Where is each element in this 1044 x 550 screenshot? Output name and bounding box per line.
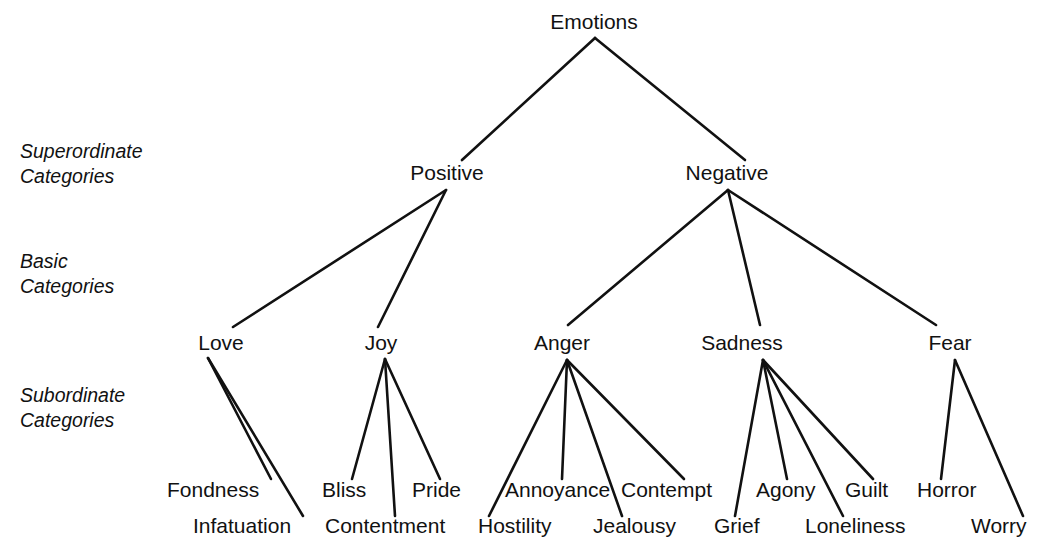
edge-anger-annoyance bbox=[562, 360, 567, 479]
edge-emotions-positive bbox=[462, 38, 595, 160]
node-label-bliss: Bliss bbox=[322, 478, 366, 501]
node-label-love: Love bbox=[198, 331, 244, 354]
level-label-superordinate-line2: Categories bbox=[20, 165, 115, 187]
node-label-guilt: Guilt bbox=[845, 478, 888, 501]
emotion-hierarchy-diagram: EmotionsPositiveNegativeLoveJoyAngerSadn… bbox=[0, 0, 1044, 550]
node-label-sadness: Sadness bbox=[701, 331, 783, 354]
node-label-pride: Pride bbox=[412, 478, 461, 501]
edge-joy-contentment bbox=[385, 359, 395, 516]
node-label-loneliness: Loneliness bbox=[805, 514, 905, 537]
edge-sadness-agony bbox=[763, 360, 787, 479]
edge-fear-horror bbox=[941, 360, 955, 479]
node-label-joy: Joy bbox=[365, 331, 398, 354]
edge-anger-contempt bbox=[567, 360, 684, 479]
edge-negative-fear bbox=[728, 190, 936, 325]
node-label-agony: Agony bbox=[756, 478, 816, 501]
edge-joy-bliss bbox=[352, 359, 385, 479]
node-label-fear: Fear bbox=[928, 331, 971, 354]
edge-sadness-guilt bbox=[763, 360, 873, 479]
node-label-contentment: Contentment bbox=[325, 514, 445, 537]
node-label-worry: Worry bbox=[971, 514, 1027, 537]
node-label-infatuation: Infatuation bbox=[193, 514, 291, 537]
node-label-contempt: Contempt bbox=[621, 478, 712, 501]
level-label-subordinate-line1: Subordinate bbox=[20, 384, 125, 406]
edge-joy-pride bbox=[385, 359, 440, 479]
level-labels-group: SuperordinateCategoriesBasicCategoriesSu… bbox=[20, 140, 143, 431]
nodes-group: EmotionsPositiveNegativeLoveJoyAngerSadn… bbox=[167, 10, 1027, 537]
level-label-basic-line2: Categories bbox=[20, 275, 115, 297]
node-label-grief: Grief bbox=[714, 514, 760, 537]
level-label-superordinate-line1: Superordinate bbox=[20, 140, 143, 162]
edge-negative-sadness bbox=[728, 190, 760, 325]
edges-group bbox=[208, 38, 1023, 516]
edge-negative-anger bbox=[568, 190, 728, 325]
edge-emotions-negative bbox=[595, 38, 745, 160]
tree-canvas: EmotionsPositiveNegativeLoveJoyAngerSadn… bbox=[0, 0, 1044, 550]
node-label-emotions: Emotions bbox=[550, 10, 638, 33]
node-label-horror: Horror bbox=[917, 478, 977, 501]
level-label-basic-line1: Basic bbox=[20, 250, 68, 272]
node-label-fondness: Fondness bbox=[167, 478, 259, 501]
node-label-positive: Positive bbox=[410, 161, 484, 184]
node-label-anger: Anger bbox=[534, 331, 590, 354]
node-label-hostility: Hostility bbox=[478, 514, 552, 537]
node-label-annoyance: Annoyance bbox=[505, 478, 610, 501]
edge-positive-love bbox=[233, 190, 446, 327]
node-label-jealousy: Jealousy bbox=[593, 514, 676, 537]
node-label-negative: Negative bbox=[686, 161, 769, 184]
level-label-subordinate-line2: Categories bbox=[20, 409, 115, 431]
